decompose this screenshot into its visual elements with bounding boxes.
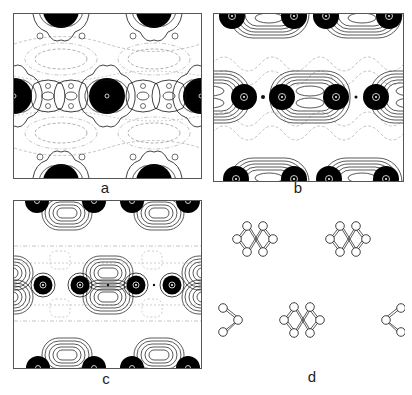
panel-a-contour-map [13, 13, 202, 179]
cluster-bottom-right [382, 304, 405, 337]
panel-a-label: a [95, 179, 115, 196]
cluster-top-right [326, 222, 371, 257]
contour-plot-b [214, 14, 403, 181]
contour-plot-a [14, 14, 201, 178]
panel-c-contour-map [13, 200, 202, 369]
panel-d-label: d [302, 368, 322, 385]
cluster-bottom-left [219, 304, 243, 337]
ball-and-stick-diagram [213, 205, 405, 355]
cluster-bottom-center [280, 303, 325, 338]
panel-b-label: b [288, 179, 308, 196]
panel-b-contour-map [213, 13, 404, 182]
panel-c-label: c [96, 370, 116, 387]
cluster-top-left [233, 222, 278, 257]
panel-d-structure-diagram [213, 205, 405, 355]
contour-plot-c [14, 201, 201, 368]
